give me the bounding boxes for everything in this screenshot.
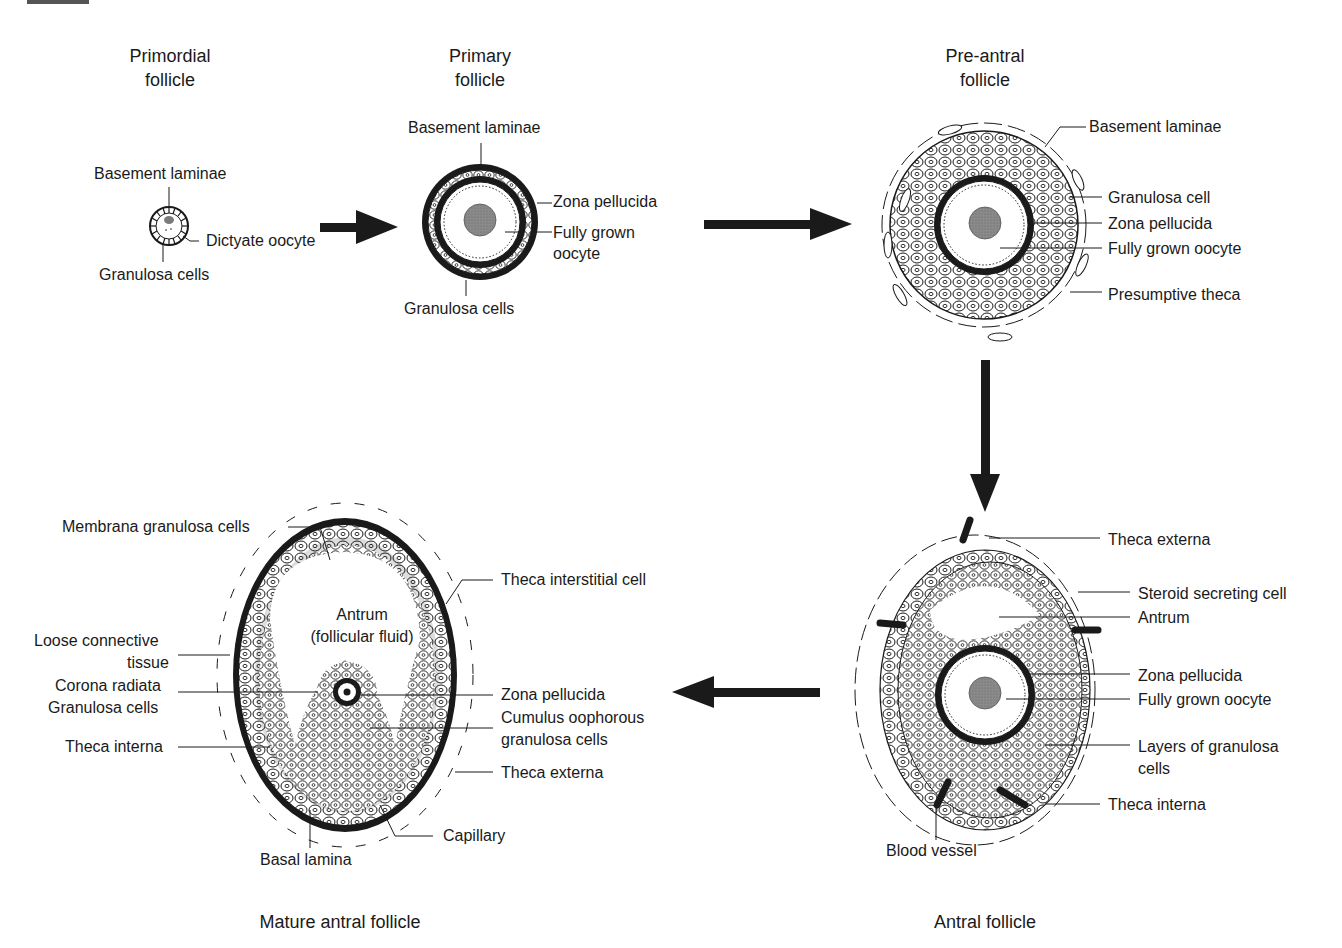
arrow-down bbox=[970, 360, 1000, 512]
label-basement-laminae: Basement laminae bbox=[1089, 116, 1222, 138]
label-cumulus-oophorous: Cumulus oophorous bbox=[501, 707, 644, 729]
label-theca-interstitial: Theca interstitial cell bbox=[501, 569, 646, 591]
label-antrum-line2: (follicular fluid) bbox=[294, 626, 430, 648]
mature-antral-follicle-drawing bbox=[178, 503, 493, 848]
label-fully-grown-oocyte: Fully grown oocyte bbox=[1108, 238, 1241, 260]
label-cumulus-oophorous-line2: granulosa cells bbox=[501, 729, 608, 751]
stage-title-pre-antral: Pre-antral follicle bbox=[925, 44, 1045, 92]
arrow-right-1 bbox=[320, 210, 398, 244]
label-corona-radiata-line2: Granulosa cells bbox=[48, 697, 158, 719]
follicle-development-diagram: Primordial follicle Basement laminae Dic… bbox=[0, 0, 1342, 948]
label-granulosa-cell: Granulosa cell bbox=[1108, 187, 1210, 209]
label-fully-grown-oocyte: Fully grown bbox=[553, 222, 635, 244]
label-basement-laminae: Basement laminae bbox=[408, 117, 541, 139]
label-granulosa-cells: Granulosa cells bbox=[99, 264, 209, 286]
title-line: Pre-antral bbox=[925, 44, 1045, 68]
label-theca-externa: Theca externa bbox=[1108, 529, 1210, 551]
pre-antral-follicle-drawing bbox=[882, 123, 1102, 341]
title-line: follicle bbox=[925, 68, 1045, 92]
label-layers-granulosa-line2: cells bbox=[1138, 758, 1170, 780]
label-theca-externa: Theca externa bbox=[501, 762, 603, 784]
label-capillary: Capillary bbox=[443, 825, 505, 847]
arrow-left bbox=[672, 676, 820, 708]
label-membrana-granulosa: Membrana granulosa cells bbox=[62, 516, 250, 538]
label-theca-interna: Theca interna bbox=[65, 736, 163, 758]
label-presumptive-theca: Presumptive theca bbox=[1108, 284, 1241, 306]
label-corona-radiata: Corona radiata bbox=[55, 675, 161, 697]
stage-title-primary: Primary follicle bbox=[430, 44, 530, 92]
label-theca-interna: Theca interna bbox=[1108, 794, 1206, 816]
label-layers-granulosa: Layers of granulosa bbox=[1138, 736, 1279, 758]
title-line: Primordial bbox=[120, 44, 220, 68]
stage-title-primordial: Primordial follicle bbox=[120, 44, 220, 92]
label-antrum: Antrum bbox=[322, 604, 402, 626]
label-zona-pellucida: Zona pellucida bbox=[1108, 213, 1212, 235]
primordial-follicle-drawing bbox=[150, 187, 199, 262]
label-loose-connective-line2: tissue bbox=[127, 652, 169, 674]
label-basal-lamina: Basal lamina bbox=[260, 849, 352, 871]
label-zona-pellucida: Zona pellucida bbox=[553, 191, 657, 213]
arrow-right-2 bbox=[704, 208, 852, 240]
label-basement-laminae: Basement laminae bbox=[94, 163, 227, 185]
label-antrum: Antrum bbox=[1138, 607, 1190, 629]
label-loose-connective: Loose connective bbox=[34, 630, 159, 652]
stage-title-antral: Antral follicle bbox=[900, 910, 1070, 934]
label-granulosa-cells: Granulosa cells bbox=[404, 298, 514, 320]
primary-follicle-drawing bbox=[422, 143, 552, 296]
label-steroid-secreting-cell: Steroid secreting cell bbox=[1138, 583, 1287, 605]
stage-title-mature-antral: Mature antral follicle bbox=[240, 910, 440, 934]
label-zona-pellucida: Zona pellucida bbox=[1138, 665, 1242, 687]
label-fully-grown-oocyte-line2: oocyte bbox=[553, 243, 600, 265]
antral-follicle-drawing bbox=[855, 520, 1130, 845]
label-zona-pellucida: Zona pellucida bbox=[501, 684, 605, 706]
label-dictyate-oocyte: Dictyate oocyte bbox=[206, 230, 315, 252]
label-fully-grown-oocyte: Fully grown oocyte bbox=[1138, 689, 1271, 711]
title-line: follicle bbox=[120, 68, 220, 92]
title-line: Primary bbox=[430, 44, 530, 68]
title-line: follicle bbox=[430, 68, 530, 92]
label-blood-vessel: Blood vessel bbox=[886, 840, 977, 862]
